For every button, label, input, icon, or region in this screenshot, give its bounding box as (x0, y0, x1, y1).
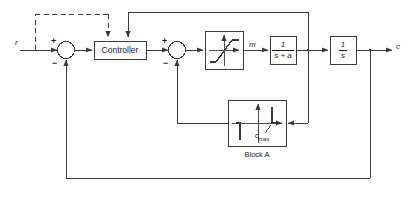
lag-transfer-function: 1 s + a (270, 36, 296, 64)
integrator-numerator: 1 (339, 41, 347, 50)
integrator-transfer-function: 1 s (330, 36, 356, 64)
cmax-subscript: max (259, 136, 269, 142)
sum1-minus-sign: − (52, 59, 57, 68)
node-dot-output (369, 49, 372, 52)
integrator-denominator: s (339, 50, 347, 60)
block-a-cmax-label: ·cmax (255, 131, 269, 142)
summing-junction-1 (58, 42, 75, 59)
cmax-symbol: ·c (255, 131, 259, 140)
sum2-plus-sign: + (162, 37, 167, 46)
lag-denominator: s + a (272, 50, 294, 60)
saturation-curve (210, 40, 239, 62)
block-a-caption: Block A (228, 150, 286, 159)
input-signal-label: r (15, 38, 18, 47)
diagram-svg (0, 0, 412, 201)
summing-junction-2 (169, 42, 186, 59)
lag-numerator: 1 (279, 41, 287, 50)
block-a-curve-right (272, 107, 278, 123)
intermediate-signal-label: m (249, 40, 256, 49)
sum2-minus-sign: − (163, 59, 168, 68)
block-diagram-canvas: r c m + − + − Controller 1 s + a 1 s ·cm… (0, 0, 412, 201)
block-a-curve-left (236, 123, 240, 140)
output-signal-label: c (396, 42, 400, 51)
sum1-plus-sign: + (51, 37, 56, 46)
node-dot-after-lag (307, 49, 310, 52)
controller-block-label: Controller (94, 45, 146, 55)
cmax-dot-accent: · (257, 127, 259, 134)
